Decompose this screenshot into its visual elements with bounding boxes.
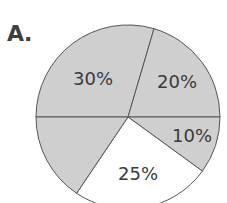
label-10: 10%	[172, 125, 212, 146]
label-20: 20%	[157, 71, 197, 92]
label-30: 30%	[73, 68, 113, 89]
label-25: 25%	[118, 163, 158, 184]
pie-chart: 30% 20% 10% 25%	[0, 0, 227, 203]
